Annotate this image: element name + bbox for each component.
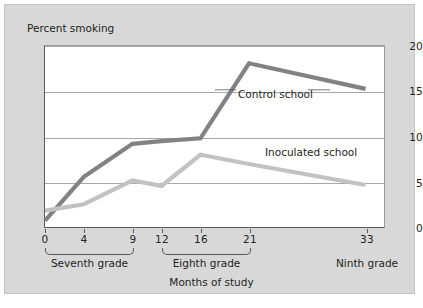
annotation-inoculated-school: Inoculated school <box>265 146 357 158</box>
figure-container: Percent smoking 20 15 10 5 0 0 4 9 12 16… <box>0 0 423 308</box>
series-lines <box>0 0 423 308</box>
annotation-control-school: Control school <box>238 88 313 100</box>
line-control-school <box>45 63 366 220</box>
line-inoculated-school <box>45 155 366 211</box>
